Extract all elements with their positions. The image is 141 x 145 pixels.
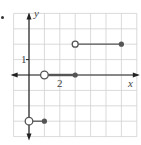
open-endpoint-circle xyxy=(25,117,33,125)
closed-endpoint-dot xyxy=(42,119,47,124)
closed-endpoint-dot xyxy=(73,72,78,77)
step-function-graph xyxy=(0,0,141,145)
x-axis-arrow-right-icon xyxy=(133,73,140,78)
y-axis-label: y xyxy=(34,8,39,19)
x-tick-label-2: 2 xyxy=(57,78,63,89)
open-endpoint-circle xyxy=(72,41,78,47)
x-axis-label: x xyxy=(128,78,133,89)
open-endpoint-circle xyxy=(41,71,49,79)
y-axis-arrow-down-icon xyxy=(27,134,32,141)
closed-endpoint-dot xyxy=(119,42,124,47)
x-axis-arrow-left-icon xyxy=(11,73,18,78)
y-tick-label-1: 1 xyxy=(21,54,27,65)
